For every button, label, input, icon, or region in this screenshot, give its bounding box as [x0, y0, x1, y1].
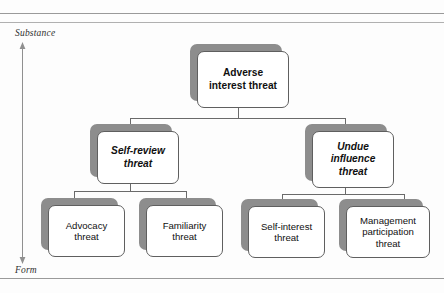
node-self-review-threat[interactable]: Self-review threat	[90, 124, 172, 177]
node-line: Adverse	[223, 67, 263, 78]
node-line: Undue	[337, 141, 369, 152]
top-rule-inner	[0, 22, 444, 23]
bottom-rule	[0, 278, 444, 279]
node-line: threat	[172, 231, 197, 242]
node-advocacy-threat[interactable]: Advocacy threat	[41, 198, 118, 250]
node-line: threat	[376, 238, 401, 249]
node-card: Adverse interest threat	[197, 51, 289, 108]
node-line: threat	[124, 158, 152, 169]
node-familiarity-threat[interactable]: Familiarity threat	[139, 198, 216, 250]
diagram-canvas: Substance Form A	[0, 0, 444, 293]
node-card: Advocacy threat	[48, 205, 125, 257]
node-self-interest-threat[interactable]: Self-interest threat	[241, 199, 318, 251]
node-line: Familiarity	[163, 220, 207, 231]
node-card: Familiarity threat	[146, 205, 223, 257]
node-card: Undue influence threat	[312, 131, 394, 188]
node-line: threat	[339, 166, 367, 177]
axis-label-substance: Substance	[15, 28, 55, 38]
node-management-participation-threat[interactable]: Management participation threat	[339, 199, 423, 251]
node-undue-influence-threat[interactable]: Undue influence threat	[305, 124, 387, 181]
node-line: threat	[74, 231, 99, 242]
node-line: threat	[274, 232, 299, 243]
node-line: Advocacy	[66, 220, 108, 231]
axis-label-form: Form	[15, 265, 37, 275]
node-card: Management participation threat	[346, 206, 430, 258]
node-line: interest threat	[209, 80, 277, 91]
node-line: Self-review	[111, 145, 165, 156]
node-card: Self-review threat	[97, 131, 179, 184]
node-line: participation	[362, 226, 414, 237]
node-adverse-interest-threat[interactable]: Adverse interest threat	[190, 44, 282, 101]
node-line: influence	[331, 153, 376, 164]
node-line: Management	[360, 215, 416, 226]
substance-form-axis-arrow	[18, 42, 27, 264]
top-rule-outer	[0, 13, 444, 14]
node-card: Self-interest threat	[248, 206, 325, 258]
node-line: Self-interest	[261, 221, 312, 232]
